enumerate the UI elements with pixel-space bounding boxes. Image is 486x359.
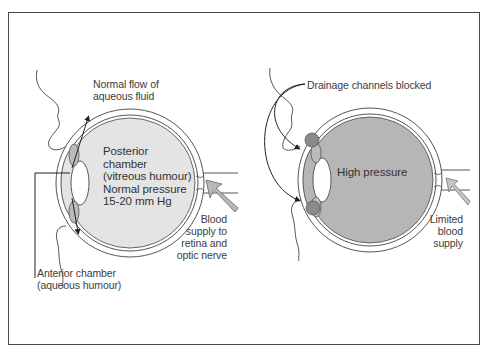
posterior-chamber-label: Posterior chamber (vitreous humour) Norm… xyxy=(103,145,191,208)
face-profile-upper-icon xyxy=(36,70,66,150)
blood-supply-arrow-icon xyxy=(206,180,238,212)
limited-blood-arrow-icon xyxy=(446,178,470,205)
face-profile-lower-icon xyxy=(291,200,302,261)
drainage-blocked-label: Drainage channels blocked xyxy=(307,79,431,91)
blockage-bottom-icon xyxy=(306,201,320,215)
limited-blood-label: Limited blood supply xyxy=(420,213,463,249)
flow-label: Normal flow of aqueous fluid xyxy=(93,78,159,102)
high-pressure-label: High pressure xyxy=(337,166,407,179)
anterior-chamber-label: Anterior chamber (aqueous humour) xyxy=(37,267,121,291)
blockage-top-icon xyxy=(305,133,319,147)
blood-supply-label: Blood supply to retina and optic nerve xyxy=(170,213,227,261)
eye-diagrams xyxy=(0,0,486,359)
